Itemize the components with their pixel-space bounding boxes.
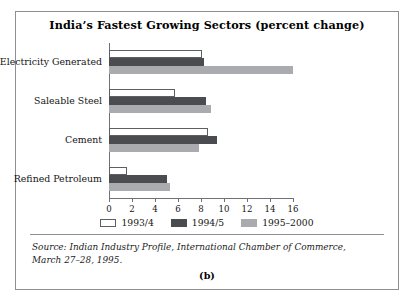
source-note: Source: Indian Industry Profile, Interna… <box>32 241 362 266</box>
x-tick-label: 2 <box>129 204 134 214</box>
bar <box>109 167 127 175</box>
bar <box>109 183 170 191</box>
legend-swatch <box>171 219 187 227</box>
x-tick-label: 4 <box>152 204 157 214</box>
category-label: Saleable Steel <box>34 95 102 106</box>
x-tick <box>155 198 156 202</box>
figure-caption: (b) <box>16 270 398 281</box>
legend-label: 1995–2000 <box>262 217 313 228</box>
bar <box>109 50 202 58</box>
bar <box>109 144 199 152</box>
x-tick <box>132 198 133 202</box>
x-tick-label: 14 <box>265 204 276 214</box>
legend-item: 1995–2000 <box>241 217 313 228</box>
x-tick-label: 10 <box>219 204 230 214</box>
bar <box>109 58 204 66</box>
bar <box>109 128 208 136</box>
legend-label: 1994/5 <box>192 217 224 228</box>
x-tick <box>270 198 271 202</box>
chart-legend: 1993/41994/51995–2000 <box>16 217 398 228</box>
bar <box>109 66 293 74</box>
divider <box>30 234 384 235</box>
bar <box>109 175 167 183</box>
bar-group: Cement <box>109 121 293 160</box>
figure-panel: India’s Fastest Growing Sectors (percent… <box>15 11 399 290</box>
x-tick <box>247 198 248 202</box>
x-tick-label: 8 <box>198 204 203 214</box>
bar <box>109 89 175 97</box>
x-tick-label: 16 <box>288 204 299 214</box>
bar-group: Electricity Generated <box>109 43 293 82</box>
bar <box>109 97 206 105</box>
legend-swatch <box>241 219 257 227</box>
x-tick <box>224 198 225 202</box>
x-tick <box>178 198 179 202</box>
x-tick-label: 12 <box>242 204 253 214</box>
category-label: Electricity Generated <box>0 56 102 67</box>
legend-item: 1994/5 <box>171 217 224 228</box>
x-tick <box>201 198 202 202</box>
legend-label: 1993/4 <box>121 217 153 228</box>
category-label: Cement <box>65 134 102 145</box>
bar <box>109 136 217 144</box>
bar <box>109 105 211 113</box>
legend-swatch <box>100 219 116 227</box>
chart-title: India’s Fastest Growing Sectors (percent… <box>16 18 398 32</box>
category-label: Refined Petroleum <box>14 173 102 184</box>
x-tick <box>293 198 294 202</box>
legend-item: 1993/4 <box>100 217 153 228</box>
plot-area: 0246810121416 Electricity GeneratedSalea… <box>109 43 293 198</box>
x-tick <box>109 198 110 202</box>
bar-group: Refined Petroleum <box>109 159 293 198</box>
x-tick-label: 6 <box>175 204 180 214</box>
x-tick-label: 0 <box>106 204 111 214</box>
bar-group: Saleable Steel <box>109 82 293 121</box>
